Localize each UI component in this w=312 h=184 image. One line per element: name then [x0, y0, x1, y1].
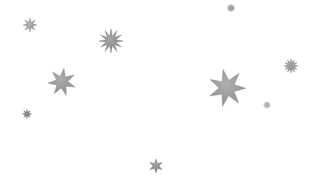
star-field-canvas — [0, 0, 312, 184]
background — [0, 0, 312, 184]
star-tiny-left-icon — [23, 110, 32, 119]
star-small-topleft-icon — [23, 18, 37, 32]
star-tiny-top-icon — [227, 4, 235, 12]
star-field — [0, 0, 312, 184]
star-tiny-right-icon — [264, 102, 271, 109]
